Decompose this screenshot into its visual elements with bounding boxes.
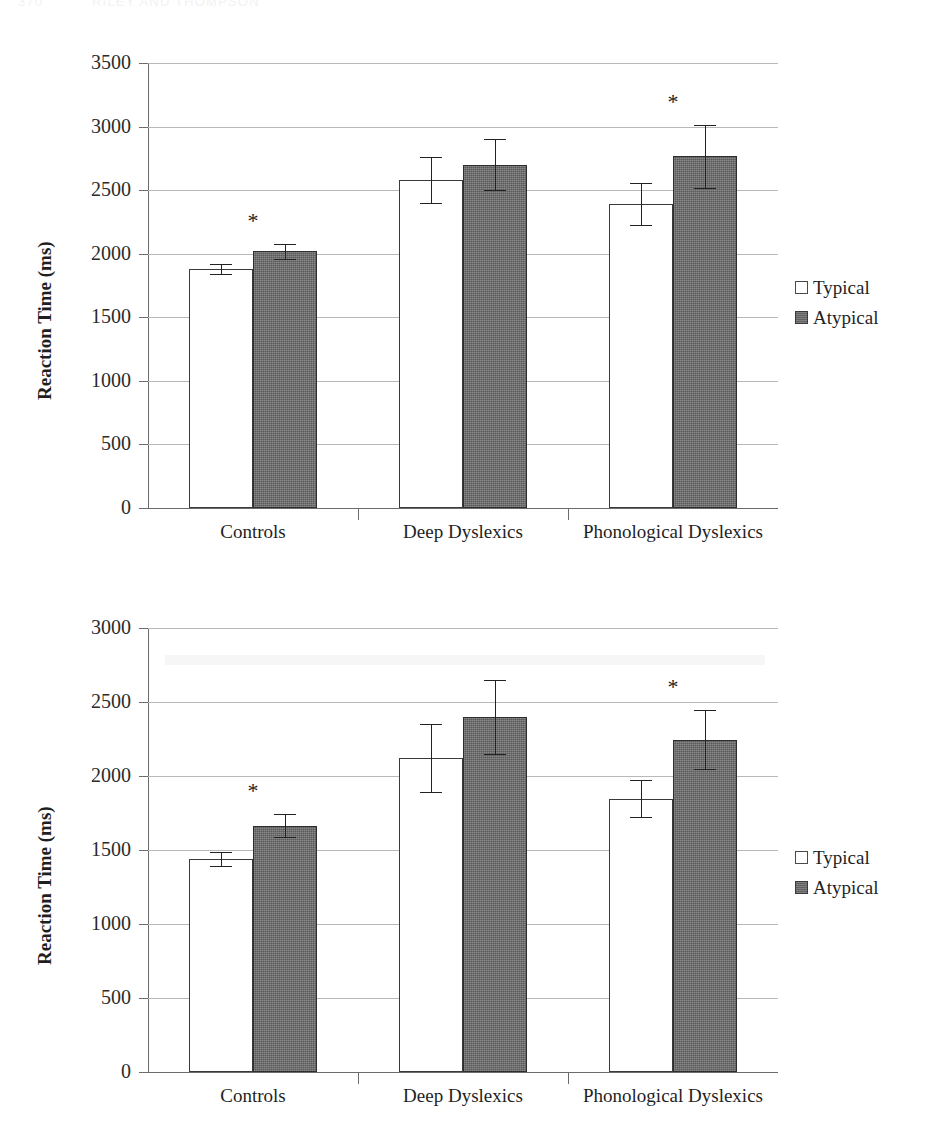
error-bar bbox=[641, 780, 642, 817]
y-tick-label: 500 bbox=[28, 987, 131, 1007]
y-tick-label: 3000 bbox=[28, 617, 131, 637]
y-tick-label: 1500 bbox=[28, 839, 131, 859]
figure-page: 370 RILEY AND THOMPSON Reaction Time (ms… bbox=[0, 0, 937, 1121]
y-axis-label-bottom: Reaction Time (ms) bbox=[34, 806, 56, 965]
y-tick-label: 2500 bbox=[28, 691, 131, 711]
legend-label-atypical: Atypical bbox=[813, 878, 878, 897]
error-bar-cap bbox=[420, 724, 442, 725]
bar-atypical-controls bbox=[253, 826, 317, 1072]
legend-item-typical: Typical bbox=[795, 842, 878, 872]
y-tick-mark bbox=[139, 702, 148, 703]
y-tick-mark bbox=[139, 1072, 148, 1073]
y-tick-label: 0 bbox=[28, 1061, 131, 1081]
y-tick-label: 1000 bbox=[28, 913, 131, 933]
y-tick-mark bbox=[139, 776, 148, 777]
scan-artifact bbox=[165, 655, 765, 665]
significance-asterisk: * bbox=[655, 676, 691, 698]
error-bar-cap bbox=[274, 814, 296, 815]
legend-swatch-atypical-icon bbox=[795, 881, 808, 894]
legend-bottom: Typical Atypical bbox=[795, 842, 878, 902]
gridline bbox=[148, 702, 778, 703]
error-bar-cap bbox=[694, 710, 716, 711]
error-bar-cap bbox=[484, 754, 506, 755]
legend-label-typical: Typical bbox=[813, 848, 870, 867]
bar-typical-phonological-dyslexics bbox=[609, 799, 673, 1072]
error-bar bbox=[431, 724, 432, 792]
error-bar-cap bbox=[484, 680, 506, 681]
error-bar bbox=[705, 710, 706, 769]
gridline bbox=[148, 628, 778, 629]
bar-atypical-deep-dyslexics bbox=[463, 717, 527, 1072]
bar-typical-controls bbox=[189, 859, 253, 1072]
error-bar-cap bbox=[630, 780, 652, 781]
error-bar-cap bbox=[630, 817, 652, 818]
legend-swatch-typical-icon bbox=[795, 851, 808, 864]
y-tick-mark bbox=[139, 924, 148, 925]
category-divider bbox=[358, 1072, 359, 1084]
error-bar bbox=[285, 814, 286, 836]
error-bar-cap bbox=[694, 769, 716, 770]
y-tick-label: 2000 bbox=[28, 765, 131, 785]
category-divider bbox=[568, 1072, 569, 1084]
bar-typical-deep-dyslexics bbox=[399, 758, 463, 1072]
y-tick-mark bbox=[139, 998, 148, 999]
error-bar-cap bbox=[420, 792, 442, 793]
error-bar-cap bbox=[274, 837, 296, 838]
y-tick-mark bbox=[139, 628, 148, 629]
significance-asterisk: * bbox=[235, 780, 271, 802]
axis-baseline bbox=[148, 1072, 778, 1073]
y-tick-mark bbox=[139, 850, 148, 851]
legend-item-atypical: Atypical bbox=[795, 872, 878, 902]
error-bar-cap bbox=[210, 866, 232, 867]
chart-bottom: Reaction Time (ms) Typical Atypical 0500… bbox=[0, 0, 937, 1121]
error-bar bbox=[495, 680, 496, 754]
x-axis-category-label: Phonological Dyslexics bbox=[548, 1085, 798, 1107]
error-bar-cap bbox=[210, 852, 232, 853]
bar-atypical-phonological-dyslexics bbox=[673, 740, 737, 1072]
error-bar bbox=[221, 852, 222, 865]
